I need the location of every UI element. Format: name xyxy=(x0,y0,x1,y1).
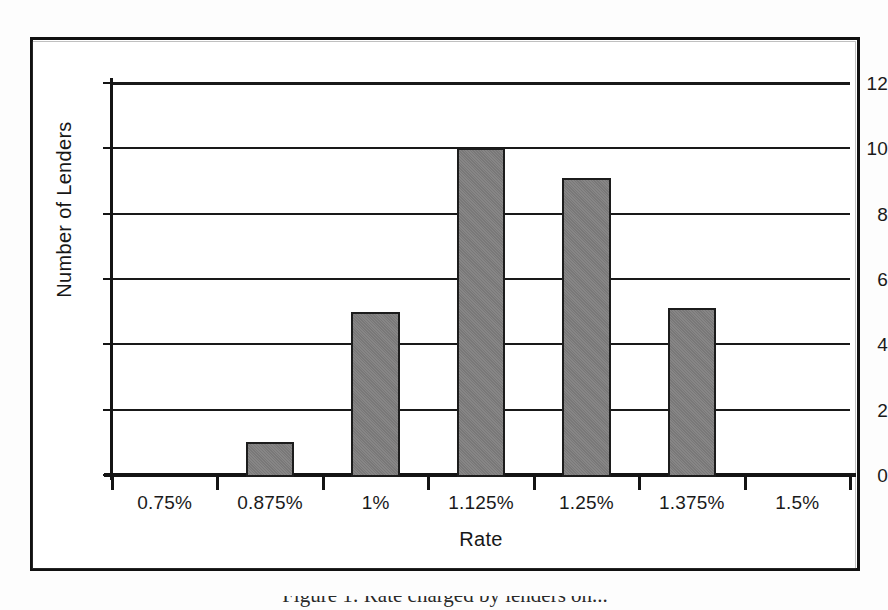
y-axis-title: Number of Lenders xyxy=(53,80,76,340)
y-axis-label-4: 4 xyxy=(792,335,888,354)
y-axis-label-10: 10 xyxy=(792,139,888,158)
x-tick-3 xyxy=(427,477,430,490)
bar-chart: 024681012 0.75%0.875%1%1.125%1.25%1.375%… xyxy=(0,0,888,610)
bar-1-375pct xyxy=(668,308,716,477)
x-axis-label-1-125pct: 1.125% xyxy=(448,492,514,514)
x-tick-7 xyxy=(849,477,852,490)
x-tick-1 xyxy=(216,477,219,490)
bar-0-875pct xyxy=(246,442,294,477)
x-axis-title: Rate xyxy=(112,528,850,551)
x-tick-2 xyxy=(322,477,325,490)
y-axis-label-12: 12 xyxy=(792,74,888,93)
y-axis-label-2: 2 xyxy=(792,400,888,419)
x-axis-label-1-375pct: 1.375% xyxy=(659,492,725,514)
bar-1pct xyxy=(351,312,399,477)
x-tick-0 xyxy=(111,477,114,490)
x-axis-label-0-75pct: 0.75% xyxy=(137,492,192,514)
x-tick-5 xyxy=(638,477,641,490)
scanned-page: 024681012 0.75%0.875%1%1.125%1.25%1.375%… xyxy=(0,0,888,610)
figure-caption-text: Figure 1: Rate charged by lenders on... xyxy=(30,596,860,608)
x-axis-label-1-25pct: 1.25% xyxy=(559,492,614,514)
x-tick-6 xyxy=(744,477,747,490)
y-axis-line xyxy=(110,78,113,480)
bar-1-125pct xyxy=(457,148,505,477)
y-axis-label-8: 8 xyxy=(792,204,888,223)
gridline-12 xyxy=(112,82,850,85)
figure-caption-clipped: Figure 1: Rate charged by lenders on... xyxy=(30,596,860,610)
y-axis-label-6: 6 xyxy=(792,270,888,289)
x-axis-label-1-5pct: 1.5% xyxy=(775,492,819,514)
x-tick-4 xyxy=(533,477,536,490)
bar-1-25pct xyxy=(562,178,610,477)
x-axis-label-1pct: 1% xyxy=(362,492,390,514)
x-axis-label-0-875pct: 0.875% xyxy=(237,492,303,514)
